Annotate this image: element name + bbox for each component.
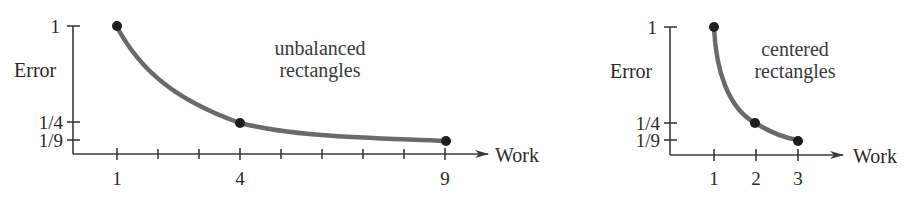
y-tick-label: 1/9	[636, 130, 660, 151]
y-axis-title: Error	[610, 60, 653, 82]
x-tick-label: 1	[709, 168, 719, 189]
x-tick-label: 9	[440, 168, 450, 189]
x-tick-label: 1	[112, 168, 122, 189]
data-point	[112, 21, 122, 31]
data-point	[441, 136, 451, 146]
y-tick-label: 1	[648, 17, 658, 38]
y-tick-label: 1	[51, 16, 61, 37]
annotation-line-1: centered	[761, 38, 829, 60]
annotation-line-2: rectangles	[279, 59, 360, 82]
x-tick-label: 3	[793, 168, 803, 189]
x-axis-title: Work	[495, 144, 539, 166]
data-point	[793, 136, 803, 146]
x-tick-label: 4	[235, 168, 245, 189]
y-tick-label: 1/9	[39, 130, 63, 151]
chart-unbalanced: 1 1/4 1/9 Error 1 4 9 Work unbalanced re…	[14, 16, 539, 189]
y-axis-title: Error	[14, 59, 57, 81]
figure: 1 1/4 1/9 Error 1 4 9 Work unbalanced re…	[0, 0, 908, 199]
x-tick-label: 2	[751, 168, 761, 189]
annotation-line-1: unbalanced	[274, 37, 365, 59]
data-point	[709, 22, 719, 32]
data-point	[750, 118, 760, 128]
annotation-line-2: rectangles	[754, 60, 835, 83]
chart-centered: 1 1/4 1/9 Error 1 2 3 Work centered rect…	[610, 17, 897, 189]
x-axis-title: Work	[853, 145, 897, 167]
data-point	[235, 118, 245, 128]
